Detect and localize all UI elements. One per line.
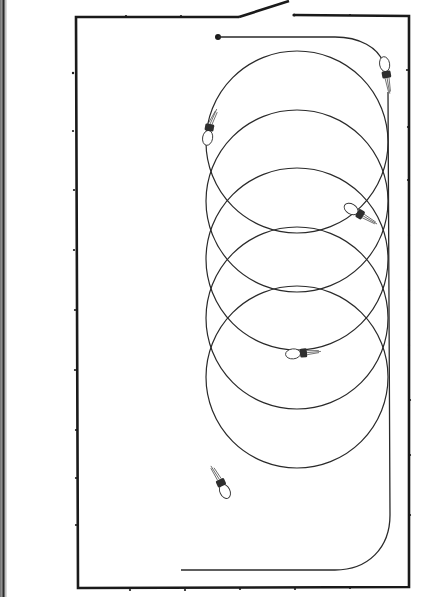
bulb-1 bbox=[378, 56, 394, 95]
bulb-base bbox=[300, 348, 308, 358]
coil-loop-2 bbox=[206, 110, 388, 292]
circuit-diagram bbox=[0, 0, 439, 597]
feed-wire bbox=[218, 37, 383, 62]
spiral-coil bbox=[206, 51, 388, 468]
return-wire bbox=[181, 92, 390, 570]
frame-ticks bbox=[72, 14, 411, 591]
bulb-5 bbox=[208, 463, 232, 500]
coil-loop-3 bbox=[206, 168, 388, 350]
switch-lever bbox=[239, 1, 289, 17]
bulb-glass bbox=[378, 56, 390, 73]
bulb-base bbox=[204, 123, 214, 131]
bulb-base bbox=[381, 70, 391, 78]
switch-contact bbox=[292, 13, 295, 16]
bulb-glass bbox=[201, 130, 213, 147]
coil-loop-5 bbox=[206, 286, 388, 468]
coil-loop-4 bbox=[206, 227, 388, 409]
coil-loop-1 bbox=[206, 51, 388, 233]
bulb-2 bbox=[201, 107, 217, 146]
bulb-3 bbox=[342, 201, 379, 228]
frame-wire bbox=[76, 15, 409, 588]
